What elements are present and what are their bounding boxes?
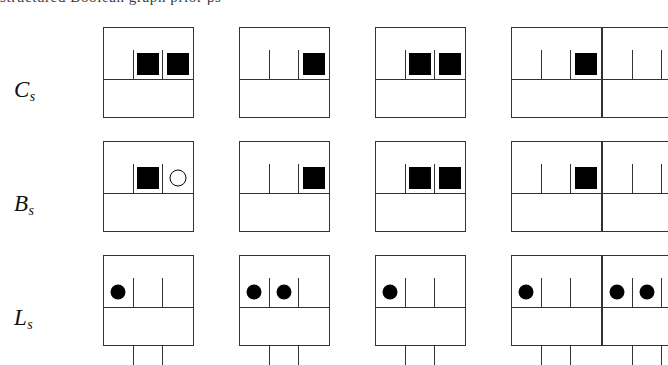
open-circle-icon bbox=[170, 170, 187, 187]
filled-square-icon bbox=[167, 53, 189, 75]
grid-ls-4 bbox=[511, 255, 602, 346]
grid-bs-1 bbox=[103, 141, 194, 232]
filled-square-icon bbox=[575, 53, 597, 75]
filled-square-icon bbox=[409, 53, 431, 75]
grid-cell-r1c1[interactable] bbox=[240, 50, 270, 80]
grid-bs-5 bbox=[602, 141, 668, 232]
grid-cell-r1c2[interactable] bbox=[406, 50, 436, 80]
filled-square-icon bbox=[409, 167, 431, 189]
grid-cell-r1c2[interactable] bbox=[542, 50, 572, 80]
grid-ls-3 bbox=[375, 255, 466, 346]
filled-dot-icon bbox=[383, 285, 398, 300]
grid-cell-r1c3[interactable] bbox=[299, 164, 329, 194]
grid-cell-r1c1[interactable] bbox=[376, 164, 406, 194]
grid-cell-r1c3[interactable] bbox=[662, 164, 668, 194]
filled-dot-icon bbox=[111, 285, 126, 300]
grid-cell-r1c2[interactable] bbox=[270, 50, 300, 80]
grid-cell-r1c3[interactable] bbox=[662, 50, 668, 80]
grid-bs-4 bbox=[511, 141, 602, 232]
grid-cell-r1c3[interactable] bbox=[571, 50, 601, 80]
figure-row-ls: Ls bbox=[0, 250, 668, 358]
grid-ls-5 bbox=[602, 255, 668, 346]
filled-dot-icon bbox=[276, 285, 291, 300]
filled-square-icon bbox=[575, 167, 597, 189]
filled-square-icon bbox=[439, 167, 461, 189]
grid-cell-r1c1[interactable] bbox=[376, 278, 406, 308]
grid-cell-r1c2[interactable] bbox=[134, 164, 164, 194]
filled-square-icon bbox=[303, 53, 325, 75]
grid-cs-3 bbox=[375, 27, 466, 118]
grid-cell-r1c1[interactable] bbox=[104, 164, 134, 194]
figure-grid-panel: CsBsLs bbox=[0, 0, 668, 365]
filled-square-icon bbox=[137, 53, 159, 75]
grid-cell-r1c3[interactable] bbox=[662, 278, 668, 308]
grid-cell-r1c1[interactable] bbox=[603, 50, 633, 80]
filled-dot-icon bbox=[639, 285, 654, 300]
grid-cell-r1c3[interactable] bbox=[299, 278, 329, 308]
grid-bs-3 bbox=[375, 141, 466, 232]
grid-cell-r1c2[interactable] bbox=[633, 164, 663, 194]
grid-cell-r1c1[interactable] bbox=[512, 278, 542, 308]
grid-bs-2 bbox=[239, 141, 330, 232]
grid-cell-r1c3[interactable] bbox=[435, 278, 465, 308]
grid-cell-r1c3[interactable] bbox=[571, 164, 601, 194]
grid-cell-r1c3[interactable] bbox=[435, 50, 465, 80]
filled-square-icon bbox=[303, 167, 325, 189]
filled-dot-icon bbox=[519, 285, 534, 300]
grid-cell-r1c2[interactable] bbox=[406, 278, 436, 308]
grid-ls-1 bbox=[103, 255, 194, 346]
grid-ls-2 bbox=[239, 255, 330, 346]
grid-cell-r1c1[interactable] bbox=[512, 50, 542, 80]
grid-cell-r1c2[interactable] bbox=[406, 164, 436, 194]
grid-cell-r1c2[interactable] bbox=[633, 278, 663, 308]
grid-cell-r1c1[interactable] bbox=[240, 278, 270, 308]
grid-cell-r1c2[interactable] bbox=[633, 50, 663, 80]
grid-cell-r1c1[interactable] bbox=[512, 164, 542, 194]
filled-dot-icon bbox=[247, 285, 262, 300]
grid-strip bbox=[0, 22, 668, 130]
grid-cell-r1c1[interactable] bbox=[240, 164, 270, 194]
grid-cell-r1c2[interactable] bbox=[134, 278, 164, 308]
filled-dot-icon bbox=[610, 285, 625, 300]
grid-strip bbox=[0, 136, 668, 244]
grid-cell-r1c2[interactable] bbox=[270, 164, 300, 194]
grid-cs-5 bbox=[602, 27, 668, 118]
grid-cell-r1c1[interactable] bbox=[376, 50, 406, 80]
grid-cs-2 bbox=[239, 27, 330, 118]
grid-strip bbox=[0, 250, 668, 358]
grid-cell-r1c3[interactable] bbox=[435, 164, 465, 194]
grid-cell-r1c1[interactable] bbox=[603, 164, 633, 194]
grid-cell-r1c1[interactable] bbox=[104, 50, 134, 80]
grid-cell-r1c1[interactable] bbox=[104, 278, 134, 308]
grid-cs-1 bbox=[103, 27, 194, 118]
figure-row-cs: Cs bbox=[0, 22, 668, 130]
grid-cell-r1c2[interactable] bbox=[270, 278, 300, 308]
filled-square-icon bbox=[439, 53, 461, 75]
grid-cell-r1c3[interactable] bbox=[163, 164, 193, 194]
grid-cell-r1c3[interactable] bbox=[571, 278, 601, 308]
grid-cell-r1c3[interactable] bbox=[163, 278, 193, 308]
grid-cell-r1c2[interactable] bbox=[542, 164, 572, 194]
grid-cell-r1c2[interactable] bbox=[134, 50, 164, 80]
grid-cell-r1c3[interactable] bbox=[163, 50, 193, 80]
grid-cell-r1c1[interactable] bbox=[603, 278, 633, 308]
grid-cs-4 bbox=[511, 27, 602, 118]
filled-square-icon bbox=[137, 167, 159, 189]
grid-cell-r1c2[interactable] bbox=[542, 278, 572, 308]
grid-cell-r1c3[interactable] bbox=[299, 50, 329, 80]
figure-row-bs: Bs bbox=[0, 136, 668, 244]
